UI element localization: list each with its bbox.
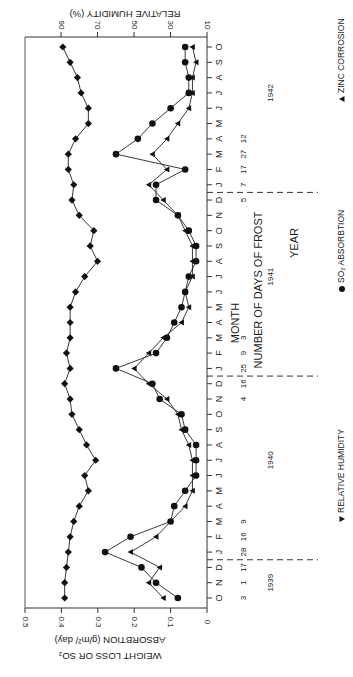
right-axis-tick-label: 30: [166, 21, 175, 30]
triangle-marker: [146, 580, 151, 586]
diamond-marker: [63, 564, 70, 571]
right-axis-tick-label: 10: [203, 21, 212, 30]
circle-marker: [156, 396, 163, 403]
diamond-marker: [67, 395, 74, 402]
left-axis-tick-label: 0: [203, 620, 212, 625]
circle-marker: [127, 533, 134, 540]
month-tick-label: J: [214, 183, 224, 188]
triangle-marker: [149, 151, 154, 157]
month-tick-label: M: [214, 334, 224, 342]
triangle-marker: [157, 564, 162, 570]
diamond-marker: [61, 380, 68, 387]
diamond-marker: [61, 594, 68, 601]
legend-circle-icon: [339, 286, 345, 292]
frost-days-value: 9: [239, 519, 248, 524]
month-tick-label: S: [214, 427, 224, 433]
diamond-marker: [65, 151, 72, 158]
circle-marker: [153, 579, 160, 586]
month-tick-label: J: [214, 550, 224, 555]
year-axis-title: YEAR: [288, 228, 300, 258]
diamond-marker: [67, 365, 74, 372]
diamond-marker: [85, 487, 92, 494]
legend-triangle-icon: [339, 96, 345, 102]
right-axis-tick-label: 70: [93, 21, 102, 30]
month-tick-label: J: [214, 366, 224, 371]
month-tick-label: J: [214, 106, 224, 111]
triangle-marker: [146, 182, 151, 188]
circle-marker: [149, 120, 156, 127]
month-tick-label: M: [214, 303, 224, 311]
legend-label: ZINC CORROSION: [336, 18, 346, 93]
month-tick-label: O: [214, 411, 224, 418]
left-axis-tick-label: 0.2: [130, 616, 139, 628]
frost-days-value: 12: [239, 134, 248, 143]
frost-days-value: 28: [239, 547, 248, 556]
diamond-marker: [72, 288, 79, 295]
circle-marker: [182, 59, 189, 66]
right-axis-tick-label: 90: [57, 21, 66, 30]
frost-days-value: 17: [239, 562, 248, 571]
circle-marker: [193, 442, 200, 449]
triangle-marker: [128, 549, 133, 555]
triangle-marker: [153, 534, 158, 540]
diamond-marker: [67, 304, 74, 311]
month-tick-label: N: [214, 212, 224, 219]
diamond-marker: [70, 518, 77, 525]
diamond-marker: [70, 181, 77, 188]
frost-days-value: 5: [239, 197, 248, 202]
diamond-marker: [67, 533, 74, 540]
month-tick-label: O: [214, 594, 224, 601]
year-label: 1939: [266, 573, 275, 591]
triangle-marker: [175, 411, 180, 417]
circle-marker: [153, 350, 160, 357]
month-tick-label: F: [214, 534, 224, 540]
circle-marker: [135, 136, 142, 143]
diamond-marker: [83, 441, 90, 448]
diamond-marker: [76, 426, 83, 433]
diamond-marker: [68, 196, 75, 203]
frost-axis-title: NUMBER OF DAYS OF FROST: [252, 211, 264, 368]
month-tick-label: O: [214, 43, 224, 50]
triangle-marker: [189, 44, 194, 50]
left-axis-tick-label: 0.4: [57, 616, 66, 628]
circle-marker: [178, 304, 185, 311]
legend-label: SO₂ ABSORBTION: [336, 210, 346, 283]
diamond-marker: [87, 242, 94, 249]
month-tick-label: S: [214, 243, 224, 249]
month-tick-label: J: [214, 274, 224, 279]
frost-days-value: 3: [239, 595, 248, 600]
zinc-line: [131, 47, 197, 598]
frost-days-value: 16: [239, 532, 248, 541]
frost-days-value: 16: [239, 379, 248, 388]
triangle-marker: [175, 121, 180, 127]
diamond-marker: [61, 579, 68, 586]
legend-so2: SO₂ ABSORBTION: [336, 210, 346, 292]
month-tick-label: N: [214, 396, 224, 403]
month-tick-label: J: [214, 473, 224, 478]
month-tick-label: A: [214, 136, 224, 142]
frost-days-value: 9: [239, 350, 248, 355]
diamond-marker: [67, 319, 74, 326]
diamond-marker: [59, 43, 66, 50]
diamond-marker: [76, 503, 83, 510]
circle-marker: [171, 503, 178, 510]
legend-humidity: RELATIVE HUMIDITY: [336, 429, 346, 522]
month-tick-label: J: [214, 290, 224, 295]
diamond-marker: [92, 457, 99, 464]
triangle-marker: [186, 442, 191, 448]
month-tick-label: M: [214, 150, 224, 158]
diamond-marker: [65, 166, 72, 173]
frost-days-value: 1: [239, 580, 248, 585]
circle-marker: [175, 595, 182, 602]
circle-marker: [182, 44, 189, 51]
left-axis-tick-label: 0.5: [21, 616, 30, 628]
month-tick-label: M: [214, 120, 224, 128]
month-tick-label: A: [214, 75, 224, 81]
x-axis-title: MONTH: [229, 303, 241, 343]
triangle-marker: [186, 105, 191, 111]
diamond-marker: [81, 472, 88, 479]
month-tick-label: O: [214, 227, 224, 234]
frost-days-value: 4: [239, 396, 248, 401]
circle-marker: [171, 319, 178, 326]
circle-marker: [182, 488, 189, 495]
